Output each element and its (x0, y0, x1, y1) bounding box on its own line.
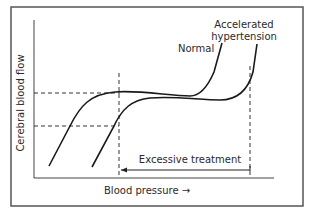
chart: Cerebral blood flow Blood pressure → Nor… (0, 0, 313, 208)
accelerated-label-line1: Accelerated (214, 19, 273, 30)
excessive-treatment-label: Excessive treatment (139, 154, 241, 165)
normal-label: Normal (178, 43, 214, 54)
y-axis-label: Cerebral blood flow (15, 54, 26, 151)
x-axis-label: Blood pressure → (104, 185, 190, 196)
accelerated-label-line2: hypertension (211, 31, 277, 42)
